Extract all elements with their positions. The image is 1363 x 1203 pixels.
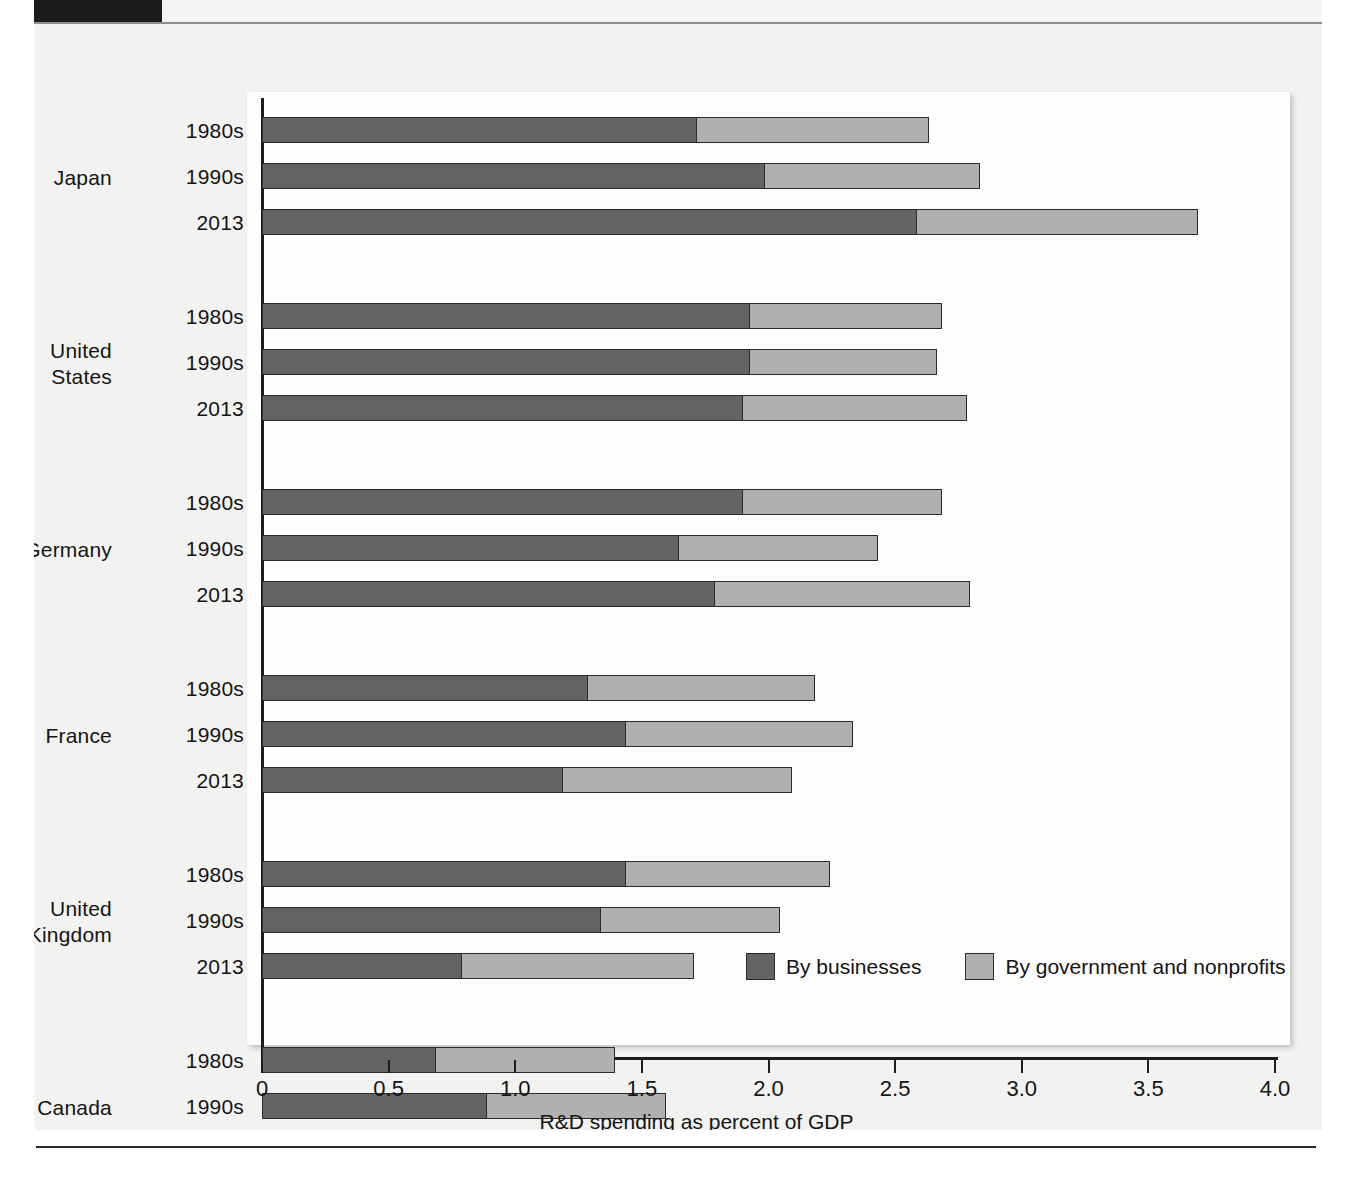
x-axis-tick [388,1060,390,1073]
period-label: 1980s [124,305,244,329]
x-axis-tick-label: 2.5 [860,1076,930,1102]
period-label: 1990s [124,723,244,747]
x-axis-tick [261,1060,263,1073]
period-label: 2013 [124,397,244,421]
bar-segment-government [587,675,815,701]
bar-segment-government [625,721,853,747]
bar-segment-businesses [262,1047,437,1073]
printed-page: 1980s1990s2013Japan1980s1990s2013UnitedS… [0,0,1363,1203]
period-label: 1990s [124,909,244,933]
x-axis-tick [1147,1060,1149,1073]
bar-segment-businesses [262,303,751,329]
x-axis-tick [768,1060,770,1073]
period-label: 2013 [124,583,244,607]
x-axis-tick-label: 2.0 [734,1076,804,1102]
bar-segment-businesses [262,349,751,375]
x-axis-tick [641,1060,643,1073]
bar-segment-government [461,953,694,979]
x-axis-tick [1021,1060,1023,1073]
period-label: 1980s [124,491,244,515]
page-left-margin [0,0,34,1203]
bar-segment-businesses [262,675,589,701]
bar-segment-government [742,489,942,515]
period-label: 2013 [124,769,244,793]
bar-segment-businesses [262,117,698,143]
x-axis-tick-label: 3.5 [1113,1076,1183,1102]
legend-label-businesses: By businesses [786,955,921,979]
x-axis-tick [894,1060,896,1073]
period-label: 2013 [124,955,244,979]
page-right-margin [1322,0,1363,1203]
page-top-rule [34,22,1363,24]
x-axis-tick-label: 3.0 [987,1076,1057,1102]
bar-segment-government [916,209,1197,235]
period-label: 1990s [124,165,244,189]
period-label: 1980s [124,677,244,701]
period-label: 1980s [124,863,244,887]
bar-segment-government [562,767,792,793]
bar-segment-government [742,395,967,421]
chart-legend: By businesses By government and nonprofi… [746,953,1286,980]
bar-segment-businesses [262,581,715,607]
period-label: 1980s [124,1049,244,1073]
bar-segment-businesses [262,767,563,793]
period-label: 1980s [124,119,244,143]
x-axis-tick-label: 1.5 [607,1076,677,1102]
bar-segment-businesses [262,395,743,421]
bar-segment-government [625,861,830,887]
period-label: 1990s [124,537,244,561]
bar-segment-businesses [262,953,462,979]
bar-segment-businesses [262,489,743,515]
bar-segment-businesses [262,861,627,887]
bar-segment-government [678,535,878,561]
x-axis-tick-label: 0.5 [354,1076,424,1102]
bar-segment-government [714,581,970,607]
page-bottom-margin [0,1130,1363,1203]
bar-segment-government [600,907,780,933]
bar-segment-businesses [262,907,601,933]
bar-segment-businesses [262,209,918,235]
bar-segment-government [696,117,929,143]
x-axis-tick-label: 4.0 [1240,1076,1310,1102]
bar-segment-government [749,303,941,329]
period-label: 2013 [124,211,244,235]
page-header-bar [34,0,162,22]
legend-swatch-businesses-icon [746,953,775,980]
bar-segment-government [435,1047,615,1073]
legend-label-government: By government and nonprofits [1005,955,1285,979]
page-bottom-rule [36,1146,1316,1148]
x-axis-tick [1274,1060,1276,1073]
bar-segment-businesses [262,721,627,747]
x-axis-tick-label: 0 [227,1076,297,1102]
legend-swatch-government-icon [965,953,994,980]
x-axis-tick [514,1060,516,1073]
legend-item-businesses: By businesses [746,953,921,980]
bar-segment-businesses [262,163,766,189]
bar-segment-businesses [262,535,680,561]
legend-item-government: By government and nonprofits [965,953,1285,980]
x-axis-tick-label: 1.0 [480,1076,550,1102]
bar-segment-government [749,349,936,375]
period-label: 1990s [124,351,244,375]
bar-segment-government [764,163,979,189]
